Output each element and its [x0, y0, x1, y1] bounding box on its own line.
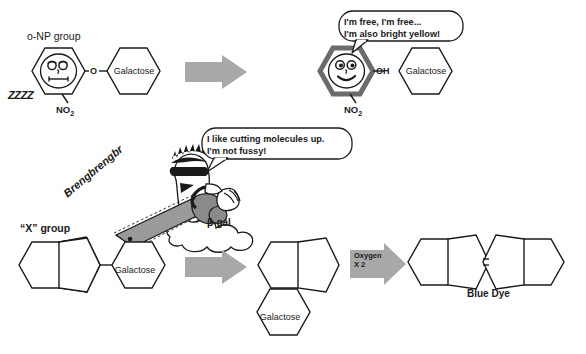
- chainsaw-bar-tip: [128, 237, 133, 242]
- beta-gal-enzyme-character: [114, 144, 253, 252]
- reaction-arrow-bottom-1: [185, 250, 247, 284]
- hydroxyl-label: OH: [376, 66, 390, 76]
- enzyme-speech-text: I like cutting molecules up. I'm not fus…: [207, 133, 324, 158]
- product-speech-text: I'm free, I'm free... I'm also bright ye…: [344, 16, 440, 41]
- ether-oxygen-label: O: [90, 66, 97, 76]
- blue-dye-structure: [408, 235, 564, 289]
- enzyme-speech-line-1: I like cutting molecules up.: [207, 133, 324, 145]
- intermediate-pentagon: [298, 238, 339, 292]
- oxygen-arrow-label: Oxygen X 2: [354, 251, 382, 270]
- galactose-label-4: Galactose: [250, 312, 310, 322]
- galactose-label-1: Galactose: [104, 66, 164, 76]
- enzyme-speech-line-2: I'm not fussy!: [207, 145, 324, 157]
- sleep-sound-label: ZZZZ: [8, 89, 33, 102]
- onp-nitro-bond: [62, 94, 68, 103]
- xgroup-pentagon-fused: [59, 238, 100, 292]
- product-nitro-label: NO2: [344, 105, 362, 118]
- onp-nitro-label: NO2: [56, 105, 74, 118]
- bluedye-right-pentagon: [483, 235, 524, 289]
- reaction-arrow-top: [185, 55, 247, 89]
- galactose-label-3: Galactose: [105, 265, 165, 275]
- blue-dye-label: Blue Dye: [467, 288, 510, 300]
- oxygen-label-line-1: Oxygen: [354, 251, 382, 260]
- enzyme-arm: [205, 184, 222, 194]
- product-speech-line-1: I'm free, I'm free...: [344, 16, 440, 28]
- intermediate-structure: [258, 238, 339, 292]
- product-speech-line-2: I'm also bright yellow!: [344, 28, 440, 40]
- onp-group-label: o-NP group: [27, 30, 81, 42]
- x-group-label: “X” group: [20, 222, 70, 234]
- oxygen-label-line-2: X 2: [354, 260, 382, 269]
- galactose-label-2: Galactose: [396, 66, 456, 76]
- beta-gal-label: β-gal: [207, 217, 231, 229]
- diagram-canvas: .bond{fill:none;stroke:#1a1a1a;stroke-wi…: [0, 0, 586, 354]
- enzyme-sunglasses: [170, 167, 209, 176]
